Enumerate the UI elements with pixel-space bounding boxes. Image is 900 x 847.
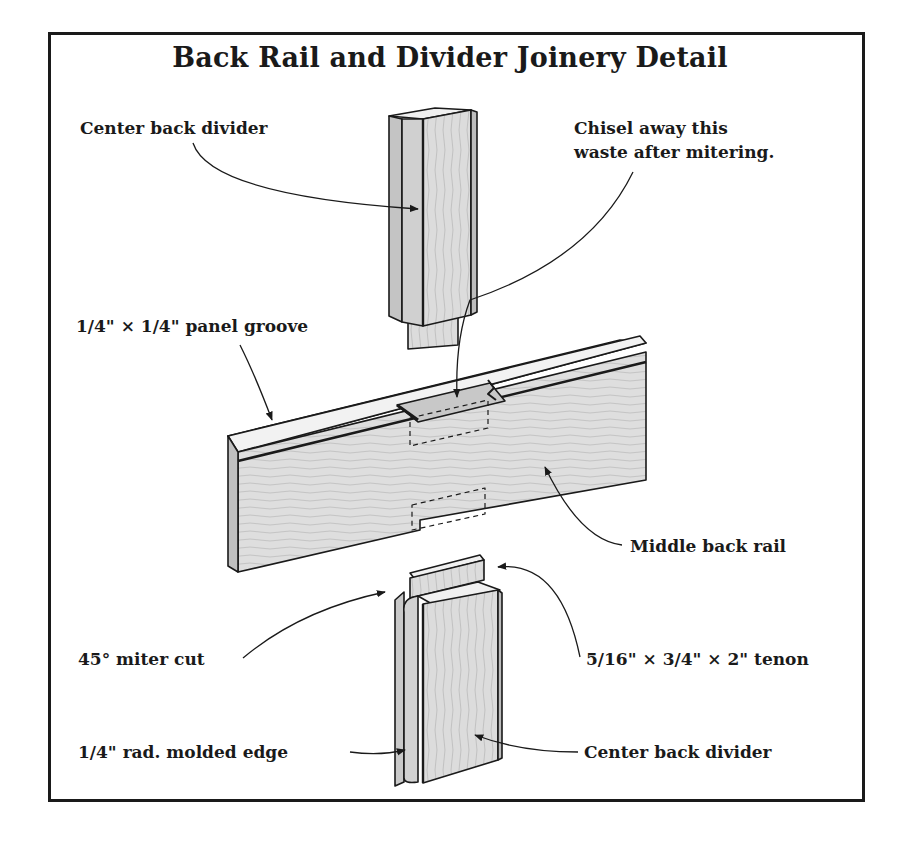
middle-back-rail [228, 336, 646, 572]
label-chisel-line2: waste after mitering. [574, 141, 774, 163]
leader-center-back-divider-top [193, 143, 418, 209]
lower-center-back-divider [395, 555, 502, 786]
leader-tenon [498, 567, 580, 657]
label-molded-edge: 1/4" rad. molded edge [78, 741, 288, 763]
leader-panel-groove [240, 345, 272, 420]
label-chisel-line1: Chisel away this [574, 117, 728, 139]
label-miter-cut: 45° miter cut [78, 648, 205, 670]
label-middle-back-rail: Middle back rail [630, 535, 786, 557]
label-center-back-divider-bottom: Center back divider [584, 741, 772, 763]
label-tenon: 5/16" × 3/4" × 2" tenon [586, 648, 809, 670]
upper-center-back-divider [389, 108, 477, 349]
label-panel-groove: 1/4" × 1/4" panel groove [76, 315, 308, 337]
label-center-back-divider-top: Center back divider [80, 117, 268, 139]
leader-miter-cut [243, 592, 385, 658]
